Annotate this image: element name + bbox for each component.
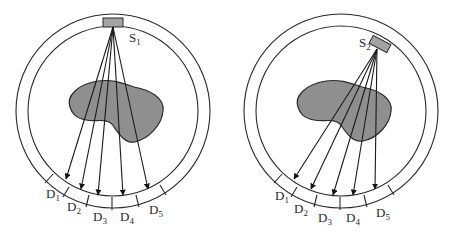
detector-label-d4: D4 — [346, 210, 360, 227]
detector-label-d2: D2 — [294, 201, 308, 218]
scanned-object — [297, 80, 391, 141]
xray-source-s1 — [103, 18, 123, 27]
detector-label-d3: D3 — [318, 210, 332, 227]
detector-label-d1: D1 — [46, 186, 60, 203]
detector-label-d5: D5 — [376, 205, 390, 222]
xray-source-s2 — [369, 35, 391, 52]
panel-right: S2 D1 D2 D3 D4 D5 — [244, 14, 438, 227]
panel-left: S1 D1 D2 D3 D4 D5 — [16, 14, 210, 226]
detector-label-d4: D4 — [120, 209, 134, 226]
ct-scan-diagram: S1 D1 D2 D3 D4 D5 S2 D1 — [0, 0, 455, 236]
xray-beams — [294, 49, 377, 195]
source-label-s1: S1 — [129, 30, 141, 47]
detector-label-d3: D3 — [93, 209, 107, 226]
detector-label-d1: D1 — [275, 188, 289, 205]
source-label-s2: S2 — [359, 35, 371, 52]
detector-label-d5: D5 — [149, 202, 163, 219]
